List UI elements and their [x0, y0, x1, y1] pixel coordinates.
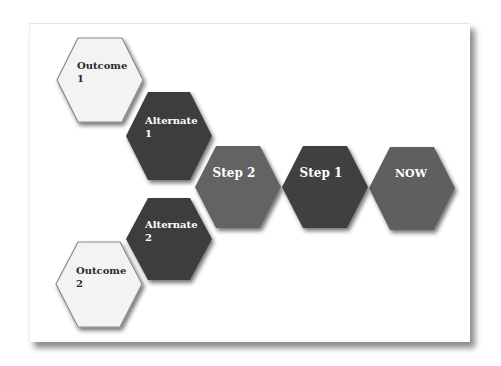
hex-label-line2: 2 — [145, 232, 152, 243]
hex-label-line1: Outcome — [76, 265, 126, 276]
hex-step-1[interactable]: Step 1 — [282, 146, 368, 228]
hex-label-line1: Alternate — [144, 219, 198, 230]
hexagon-shape — [369, 147, 455, 230]
hexagon-shape — [57, 38, 143, 122]
hex-label: Step 1 — [300, 166, 343, 180]
diagram-canvas: Outcome 1 Alternate 1 Alternate 2 Outcom… — [0, 0, 501, 366]
hex-label: Step 2 — [213, 166, 256, 180]
hexagon-shape — [195, 146, 281, 228]
hexagon-shape — [282, 146, 368, 228]
hex-alternate-1[interactable]: Alternate 1 — [126, 92, 212, 180]
hex-alternate-2[interactable]: Alternate 2 — [126, 198, 212, 280]
hexagon-flow-diagram: Outcome 1 Alternate 1 Alternate 2 Outcom… — [0, 0, 501, 366]
hex-now[interactable]: NOW — [369, 147, 455, 230]
hexagon-shape — [126, 92, 212, 180]
hex-label-line2: 1 — [145, 128, 152, 139]
hex-step-2[interactable]: Step 2 — [195, 146, 281, 228]
hex-label-line2: 2 — [76, 278, 83, 289]
hex-outcome-2[interactable]: Outcome 2 — [56, 242, 142, 327]
hex-label-line1: Alternate — [144, 115, 198, 126]
hex-label: NOW — [395, 167, 428, 180]
hexagon-shape — [56, 242, 142, 327]
hex-outcome-1[interactable]: Outcome 1 — [57, 38, 143, 122]
hex-label-line2: 1 — [77, 73, 84, 84]
hex-label-line1: Outcome — [77, 60, 127, 71]
hexagon-shape — [126, 198, 212, 280]
